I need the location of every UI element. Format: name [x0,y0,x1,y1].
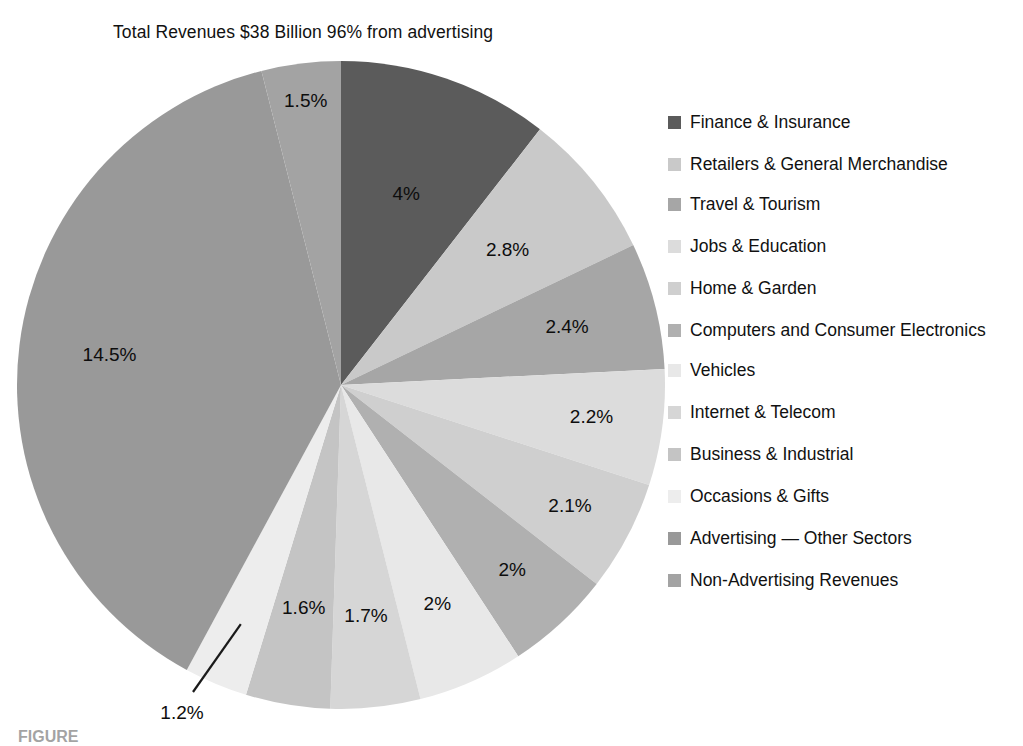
pie-slice-value-label: 2.8% [486,239,529,260]
legend-item[interactable]: Occasions & Gifts [668,486,1018,507]
legend-item-label: Occasions & Gifts [690,486,829,507]
pie-slice-value-label: 2.4% [545,316,588,337]
legend-swatch-icon [668,324,681,337]
legend-swatch-icon [668,240,681,253]
legend-item-label: Travel & Tourism [690,194,820,215]
legend-swatch-icon [668,448,681,461]
legend-item-label: Retailers & General Merchandise [690,154,948,175]
legend-item[interactable]: Vehicles [668,360,1018,381]
legend-item[interactable]: Finance & Insurance [668,112,1018,133]
legend-swatch-icon [668,198,681,211]
pie-slice-value-label: 2% [424,593,452,614]
legend-swatch-icon [668,282,681,295]
pie-slice-value-label: 4% [392,183,420,204]
pie-slice-value-label: 1.6% [282,597,325,618]
pie-slice-value-label: 1.7% [344,605,387,626]
legend-item-label: Internet & Telecom [690,402,836,423]
pie-slice-value-label: 14.5% [83,344,137,365]
pie-slice-value-label-external: 1.2% [160,702,203,723]
legend-item[interactable]: Home & Garden [668,278,1018,299]
pie-slices [17,61,665,709]
pie-slice-value-label: 1.5% [284,90,327,111]
legend-item-label: Non-Advertising Revenues [690,570,898,591]
legend-item-label: Vehicles [690,360,755,381]
legend-item-label: Jobs & Education [690,236,826,257]
legend-swatch-icon [668,406,681,419]
legend-swatch-icon [668,490,681,503]
legend-item[interactable]: Retailers & General Merchandise [668,154,1018,175]
pie-slice-value-label: 2.2% [570,406,613,427]
legend-item[interactable]: Internet & Telecom [668,402,1018,423]
legend-item-label: Finance & Insurance [690,112,851,133]
pie-chart-svg: 4%2.8%2.4%2.2%2.1%2%2%1.7%1.6%14.5%1.5%1… [0,0,700,740]
figure-caption: FIGURE [18,728,78,746]
legend-swatch-icon [668,116,681,129]
legend-item[interactable]: Business & Industrial [668,444,1018,465]
legend-item-label: Advertising — Other Sectors [690,528,912,549]
legend-swatch-icon [668,532,681,545]
legend-swatch-icon [668,364,681,377]
pie-slice-value-label: 2.1% [548,495,591,516]
legend-item[interactable]: Non-Advertising Revenues [668,570,1018,591]
legend-item-label: Computers and Consumer Electronics [690,320,986,341]
legend-item-label: Business & Industrial [690,444,853,465]
legend-item[interactable]: Advertising — Other Sectors [668,528,1018,549]
legend-item-label: Home & Garden [690,278,816,299]
legend-swatch-icon [668,158,681,171]
legend-swatch-icon [668,574,681,587]
legend-item[interactable]: Computers and Consumer Electronics [668,320,1018,341]
legend-item[interactable]: Travel & Tourism [668,194,1018,215]
legend: Finance & InsuranceRetailers & General M… [668,112,1018,612]
legend-item[interactable]: Jobs & Education [668,236,1018,257]
pie-chart: 4%2.8%2.4%2.2%2.1%2%2%1.7%1.6%14.5%1.5%1… [0,0,700,740]
pie-slice-value-label: 2% [498,559,526,580]
